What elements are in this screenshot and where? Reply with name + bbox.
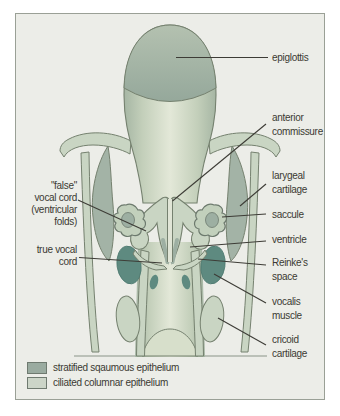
label-epiglottis: epiglottis [272,51,308,65]
glottis-slit [168,199,173,262]
epiglottis-shape [124,25,216,102]
label-true-vocal-cord: true vocal cord [37,244,77,268]
label-ventricle: ventricle [272,233,307,247]
right-saccule-core [206,213,219,228]
stratified-squamous-swatch [27,362,47,374]
ciliated-columnar-swatch [27,377,47,389]
label-false-vocal-cord: "false" vocal cord (ventricular folds) [31,180,77,228]
legend-label-ciliated-columnar: ciliated columnar epithelium [53,377,168,388]
label-reinkes-space: Reinke's space [272,256,308,284]
legend-label-stratified-squamous: stratified sqaumous epithelium [53,362,179,373]
leader-vocalis-muscle [214,274,266,303]
label-saccule: saccule [272,208,304,222]
label-vocalis-muscle: vocalis muscle [272,295,302,323]
label-cricoid-cartilage: cricoid cartilage [272,333,307,361]
left-laryngeal-cartilage-shape [92,146,113,261]
left-aryepiglottic-fold [60,133,131,157]
legend-item-stratified-squamous: stratified sqaumous epithelium [27,360,179,375]
label-laryngeal-cartilage: larygeal cartilage [272,169,307,197]
label-anterior-commissure: anterior commissure [272,111,323,139]
right-aryepiglottic-fold [209,133,280,157]
legend: stratified sqaumous epithelium ciliated … [27,360,179,390]
larynx-diagram-page: { "labels": { "epiglottis": "epiglottis"… [0,0,340,416]
legend-item-ciliated-columnar: ciliated columnar epithelium [27,375,179,390]
